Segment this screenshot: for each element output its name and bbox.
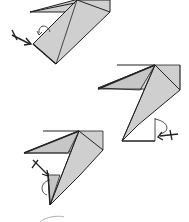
step-1-figure xyxy=(12,0,110,64)
step-2-figure xyxy=(98,65,180,141)
step-3-figure xyxy=(24,131,103,205)
arrowhead-icon xyxy=(42,170,48,176)
fold-arrow-icon xyxy=(155,119,167,134)
x-arrow-line xyxy=(33,160,48,175)
arrowhead-icon xyxy=(37,31,42,35)
origami-diagram xyxy=(0,0,189,222)
step-4-figure xyxy=(40,216,64,222)
x-arrow-line xyxy=(160,134,178,136)
partial-shape xyxy=(40,216,64,222)
